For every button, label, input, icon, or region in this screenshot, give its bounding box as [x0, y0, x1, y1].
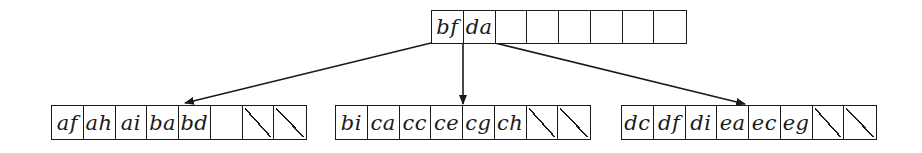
edge-root-to-right — [495, 43, 745, 104]
left-key-cell: ai — [116, 106, 148, 139]
right-null-pointer-cell — [813, 106, 845, 139]
right-key-cell: ec — [749, 106, 781, 139]
left-key-cell: af — [52, 106, 84, 139]
root-empty-cell — [591, 11, 623, 43]
root-empty-cell — [527, 11, 559, 43]
middle-null-pointer-cell — [527, 106, 559, 139]
root-key-cell: bf — [432, 11, 464, 43]
right-key-cell: di — [686, 106, 718, 139]
root-empty-cell — [623, 11, 655, 43]
left-key-cell: bd — [179, 106, 211, 139]
left-null-pointer-cell — [243, 106, 275, 139]
middle-key-cell: cg — [463, 106, 495, 139]
middle-child-node: bi ca cc ce cg ch — [335, 105, 591, 140]
root-empty-cell — [654, 11, 686, 43]
left-child-node: af ah ai ba bd — [51, 105, 307, 140]
middle-key-cell: ch — [495, 106, 527, 139]
b-tree-diagram: bf da af ah ai ba bd bi ca cc ce cg ch d… — [0, 0, 922, 153]
middle-key-cell: cc — [400, 106, 432, 139]
left-key-cell: ba — [147, 106, 179, 139]
right-key-cell: dc — [622, 106, 654, 139]
middle-null-pointer-cell — [558, 106, 590, 139]
right-key-cell: ea — [717, 106, 749, 139]
root-empty-cell — [496, 11, 528, 43]
middle-key-cell: ce — [431, 106, 463, 139]
right-key-cell: eg — [781, 106, 813, 139]
right-child-node: dc df di ea ec eg — [621, 105, 877, 140]
root-key-cell: da — [464, 11, 496, 43]
middle-key-cell: ca — [368, 106, 400, 139]
root-node: bf da — [431, 10, 687, 44]
right-key-cell: df — [654, 106, 686, 139]
left-empty-cell — [211, 106, 243, 139]
middle-key-cell: bi — [336, 106, 368, 139]
left-key-cell: ah — [84, 106, 116, 139]
right-null-pointer-cell — [844, 106, 876, 139]
root-empty-cell — [559, 11, 591, 43]
left-null-pointer-cell — [274, 106, 306, 139]
edge-root-to-left — [185, 43, 431, 103]
